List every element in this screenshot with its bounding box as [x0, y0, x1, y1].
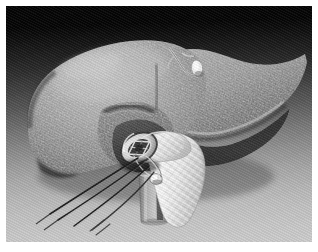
plate-right-margin	[312, 0, 318, 252]
figure-root	[0, 0, 318, 252]
plate-bottom-margin	[0, 242, 318, 252]
foreground-threads	[6, 6, 312, 242]
illustration-plate	[6, 6, 312, 242]
